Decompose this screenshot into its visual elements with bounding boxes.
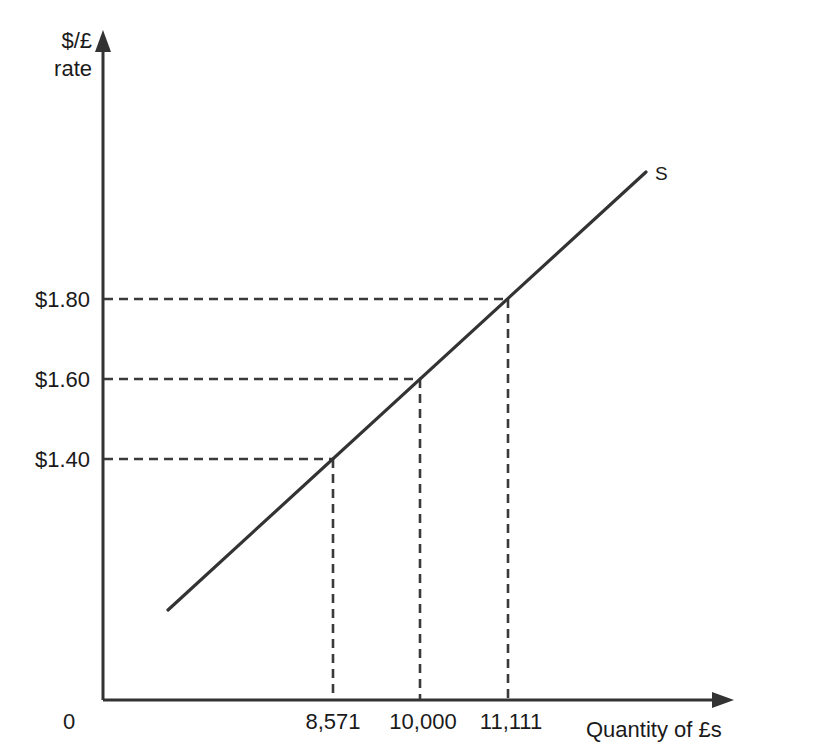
chart-canvas: $1.80 $1.60 $1.40 8,571 10,000 11,111 0 … xyxy=(0,0,813,750)
x-axis-title: Quantity of £s xyxy=(586,717,722,742)
x-tick-label-8571: 8,571 xyxy=(305,709,360,734)
supply-curve-chart: $1.80 $1.60 $1.40 8,571 10,000 11,111 0 … xyxy=(0,0,813,750)
guide-lines xyxy=(104,299,508,699)
y-tick-label-180: $1.80 xyxy=(35,287,90,312)
supply-curve-label: S xyxy=(655,163,668,184)
supply-curve-line xyxy=(168,172,646,610)
x-axis-arrow-icon xyxy=(712,692,734,708)
y-tick-label-160: $1.60 xyxy=(35,367,90,392)
y-axis-title-line2: rate xyxy=(54,56,92,81)
x-axis xyxy=(103,692,734,708)
origin-label: 0 xyxy=(63,709,75,734)
x-tick-label-11111: 11,111 xyxy=(480,709,542,734)
y-axis-arrow-icon xyxy=(95,30,111,52)
x-tick-label-10000: 10,000 xyxy=(389,709,456,734)
y-tick-label-140: $1.40 xyxy=(35,447,90,472)
y-axis xyxy=(95,30,111,700)
y-axis-title-line1: $/£ xyxy=(61,28,92,53)
